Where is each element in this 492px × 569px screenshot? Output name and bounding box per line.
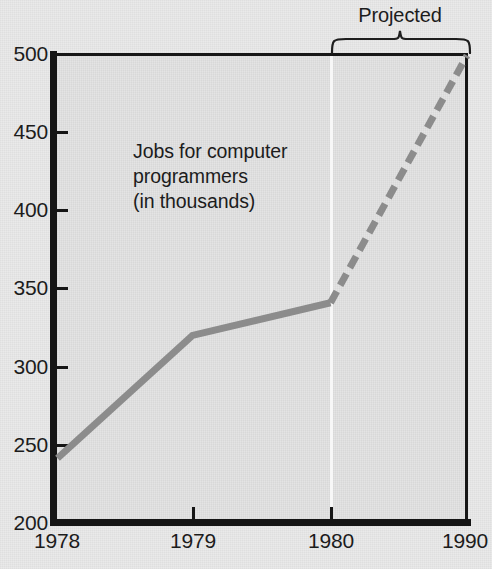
series-caption: Jobs for computer programmers (in thousa… — [133, 139, 287, 214]
series-caption-line-3: (in thousands) — [133, 189, 287, 214]
projected-label: Projected — [330, 4, 470, 27]
series-actual-line — [58, 303, 331, 459]
series-caption-line-2: programmers — [133, 164, 287, 189]
series-caption-line-1: Jobs for computer — [133, 139, 287, 164]
projected-brace-icon — [326, 30, 476, 54]
chart-figure: 500 450 400 350 300 250 200 1978 1979 19… — [0, 0, 492, 569]
series-projected-line — [331, 56, 468, 303]
data-series-layer — [0, 0, 492, 569]
